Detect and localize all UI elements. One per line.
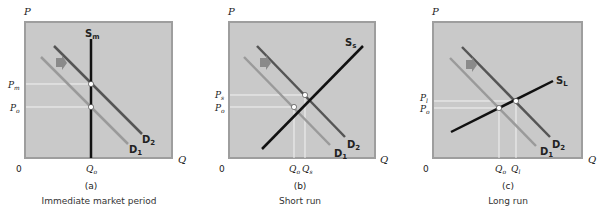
panel-label: (c) [502,181,514,191]
panel-label: (b) [294,181,307,191]
price-high-label: Ps [214,90,224,101]
panel-caption: Immediate market period [42,196,157,206]
panel-caption: Short run [279,196,321,206]
quantity-low-label: Qo [495,164,506,175]
quantity-label: Qo [86,164,97,175]
origin-label: 0 [219,164,225,174]
y-axis-label: P [23,6,31,17]
x-axis-label: Q [588,154,596,165]
origin-label: 0 [423,164,429,174]
panel-long-run: P Q 0 SL D2 D1 Pl Po Qo Ql (c) Long run [419,6,596,206]
equilibrium-point-new [88,81,93,86]
price-high-label: Pl [419,93,428,104]
equilibrium-point-old [496,105,501,110]
x-axis-label: Q [178,154,186,165]
equilibrium-point-new [513,98,518,103]
quantity-low-label: Qo [289,164,300,175]
plot-area [433,22,582,158]
y-axis-label: P [431,6,439,17]
quantity-high-label: Ql [511,164,520,175]
y-axis-label: P [227,6,235,17]
quantity-high-label: Qs [302,164,312,175]
panel-immediate-market: P Q 0 Sm D2 D1 Pm Po Qo (a) Immediate ma… [7,6,186,206]
price-high-label: Pm [7,80,20,91]
panel-caption: Long run [488,196,528,206]
price-low-label: Po [214,103,225,114]
price-low-label: Po [419,104,430,115]
equilibrium-point-old [291,104,296,109]
origin-label: 0 [16,164,22,174]
x-axis-label: Q [380,154,388,165]
supply-demand-figure: P Q 0 Sm D2 D1 Pm Po Qo (a) Immediate ma… [0,0,605,223]
panel-short-run: P Q 0 Ss D2 D1 Ps Po Qo Qs (b) Short run [214,6,388,206]
price-low-label: Po [9,103,20,114]
panel-label: (a) [85,181,98,191]
equilibrium-point-old [88,104,93,109]
equilibrium-point-new [302,92,307,97]
